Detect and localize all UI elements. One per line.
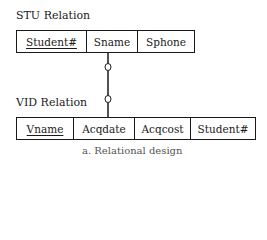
vid-column-student-number: Student# [191, 118, 255, 139]
vid-column-acqcost: Acqcost [135, 118, 191, 139]
optional-circle-icon [105, 96, 111, 103]
vid-relation-table: Vname Acqdate Acqcost Student# [16, 117, 256, 140]
vid-column-vname: Vname [17, 118, 74, 139]
optional-circle-icon [105, 64, 111, 71]
figure-caption: a. Relational design [82, 145, 182, 156]
vid-relation-title: VID Relation [16, 96, 87, 109]
vid-column-acqdate: Acqdate [74, 118, 135, 139]
